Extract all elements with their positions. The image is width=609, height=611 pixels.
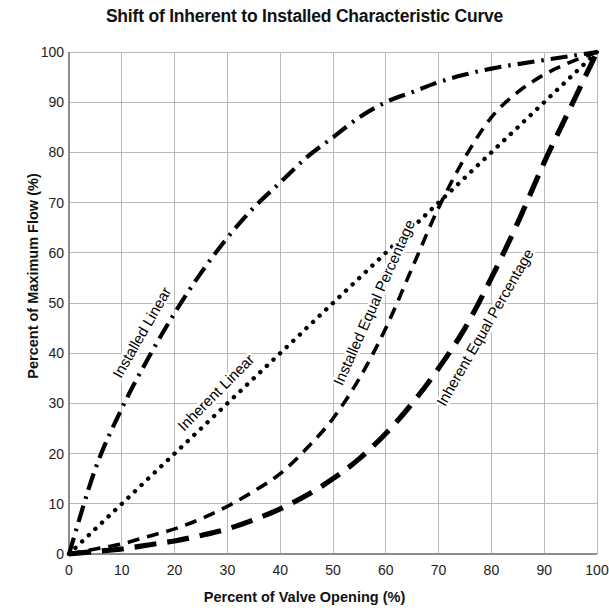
curve-label: Installed Equal Percentage <box>330 217 418 388</box>
chart-figure: Shift of Inherent to Installed Character… <box>0 0 609 611</box>
curve-label-group: Inherent LinearInherent Linear <box>174 351 257 434</box>
curve-label: Inherent Equal Percentage <box>433 246 537 409</box>
plot-canvas: Installed LinearInstalled LinearInherent… <box>0 0 609 611</box>
curve-label-group: Inherent Equal PercentageInherent Equal … <box>433 246 537 409</box>
curve-label: Inherent Linear <box>174 351 257 434</box>
curve-label-group: Installed Equal PercentageInstalled Equa… <box>330 217 418 388</box>
